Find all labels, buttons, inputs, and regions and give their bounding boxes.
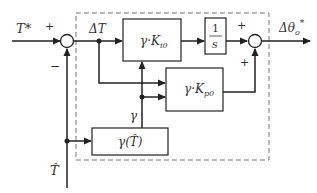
integrator-denominator: s xyxy=(212,38,218,51)
output-label: Δθo* xyxy=(278,18,305,37)
sum2-plus-left: + xyxy=(237,19,246,32)
sum2-plus-bottom: + xyxy=(240,56,249,69)
input-label: T* xyxy=(16,21,32,36)
proportional-to-sum2 xyxy=(223,49,255,92)
gamma-label: γ xyxy=(130,109,138,123)
sum1-plus-sign: + xyxy=(45,20,54,33)
sum1-minus-sign: − xyxy=(50,59,60,73)
sum-junction-2 xyxy=(249,35,262,48)
feedback-label: T̂ xyxy=(50,163,60,178)
error-label: ΔT xyxy=(88,22,107,36)
integrator-numerator: 1 xyxy=(212,22,219,35)
gamma-scheduler-label: γ(T̂) xyxy=(118,134,143,149)
block-diagram: T* + − T̂ ΔT γ·Ki0 1 s + + Δθo* γ·Kp0 γ(… xyxy=(0,0,317,193)
sum-junction-1 xyxy=(61,35,74,48)
